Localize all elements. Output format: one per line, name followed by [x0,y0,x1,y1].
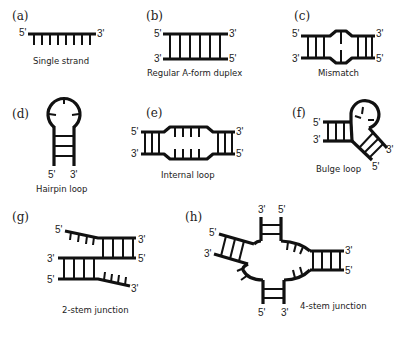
right-stem-base-pairs [313,251,340,270]
panel-a-form-duplex: (b) 5' 3' 3' 5' Regular A-form duplex [146,9,242,78]
panel-2-stem-junction: (g) 5' 3' 3' 5' 5' 3' 2-stem junction [12,210,146,315]
bulge-loop-arc [351,101,379,128]
panel-label-a: (a) [12,9,29,23]
end-label-bottom-3prime: 3' [154,53,162,64]
caption-a-form-duplex: Regular A-form duplex [147,68,242,78]
end-label-left-3prime: 3' [204,248,212,259]
end-label-5prime: 5' [48,169,56,180]
top-strand [141,127,235,132]
end-label-top-5prime: 5' [292,28,300,39]
end-label-top-5prime: 5' [154,28,162,39]
bottom-strand [141,154,235,159]
end-label-top-3prime: 3' [138,234,146,245]
caption-single-strand: Single strand [33,56,89,66]
end-label-bottom-5prime: 5' [47,274,55,285]
end-label-bottom-3prime: 3' [292,53,300,64]
panel-hairpin-loop: (d) 5' 3' Hairpin loop [12,97,87,194]
caption-internal-loop: Internal loop [161,170,215,180]
end-label-mid-5prime: 5' [138,253,146,264]
unpaired-loop-bases [175,127,199,159]
end-label-mid-3prime: 3' [47,253,55,264]
panel-4-stem-junction: (h) 3' 5' 5' 3' 3' 5' 5' [185,204,367,318]
panel-label-f: (f) [292,106,306,120]
upper-stem-base-pairs [103,238,133,258]
panel-label-b: (b) [146,9,163,23]
top-strand [65,231,136,238]
end-label-bottom-5prime: 5' [258,307,266,318]
unpaired-bases [34,34,90,45]
panel-label-e: (e) [146,106,162,120]
end-label-bottom-5prime: 5' [376,53,384,64]
end-label-top-3prime: 3' [236,126,244,137]
end-label-top-3prime: 3' [258,204,266,215]
end-label-bottom-3prime: 3' [281,307,289,318]
caption-2-stem-junction: 2-stem junction [62,305,129,315]
bulge-junction-strand [351,122,352,141]
end-label-3prime: 3' [70,169,78,180]
panel-mismatch: (c) 5' 3' 3' 5' Mismatch [292,9,384,78]
panel-single-strand: (a) 5' 3' Single strand [12,9,105,66]
panel-label-h: (h) [185,210,202,224]
end-label-5prime: 5' [19,27,27,38]
panel-bulge-loop: (f) 5' 3' 3' 5' Bulge loop [292,101,394,174]
left-stem-base-pairs [328,122,344,141]
panel-label-d: (d) [12,107,29,121]
base-pairs [170,34,220,59]
top-stem-base-pairs [261,225,281,234]
end-label-bottom-3prime: 3' [313,134,321,145]
bottom-strand-with-bulge [301,58,375,63]
end-label-right-3prime: 3' [345,245,353,256]
end-label-top-5prime: 5' [131,126,139,137]
bottom-stem-base-pairs [263,289,284,298]
caption-4-stem-junction: 4-stem junction [300,301,367,311]
end-label-left-5prime: 5' [209,227,217,238]
lower-stem-base-pairs [64,258,94,279]
end-label-top-5prime: 5' [278,204,286,215]
end-label-bottom-5prime: 5' [236,148,244,159]
stem-base-pairs [54,136,74,156]
bulge-bases [355,107,374,120]
end-label-bottom-3prime: 3' [131,148,139,159]
end-label-top-3prime: 3' [229,28,237,39]
caption-hairpin-loop: Hairpin loop [36,184,87,194]
stem-base-pairs [145,132,232,154]
loop-bases [49,97,79,115]
junction-segment-top-left [254,241,261,244]
end-label-3prime: 3' [97,28,105,39]
arm-base-pairs [359,133,383,158]
end-label-top-3prime: 3' [376,28,384,39]
panel-internal-loop: (e) 5' 3' 3' 5' Internal loop [131,106,244,180]
end-label-top-5prime: 5' [313,117,321,128]
caption-mismatch: Mismatch [318,68,359,78]
panel-label-g: (g) [12,210,29,224]
panel-label-c: (c) [294,9,310,23]
end-label-right-5prime: 5' [345,265,353,276]
end-label-arm-3prime: 3' [386,144,394,155]
end-label-top-5prime: 5' [55,224,63,235]
end-label-bottom-3prime: 3' [131,283,139,294]
rna-structure-figure: (a) 5' 3' Single strand (b) 5' 3' 3' 5' … [0,0,406,340]
top-strand-with-bulge [301,31,375,36]
junction-segment-bottom-right [284,270,310,280]
end-label-arm-5prime: 5' [372,161,380,172]
caption-bulge-loop: Bulge loop [316,164,361,174]
end-label-bottom-5prime: 5' [229,53,237,64]
